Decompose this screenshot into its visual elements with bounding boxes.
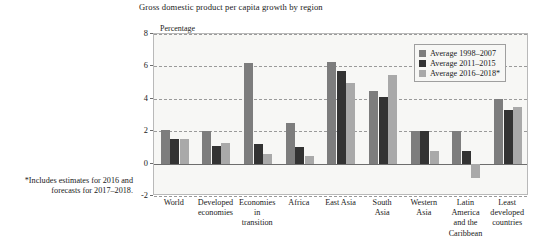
bar xyxy=(420,131,429,163)
y-tick-mark xyxy=(150,65,153,66)
y-tick-label: 6 xyxy=(132,61,148,70)
gridline--2 xyxy=(154,196,527,197)
legend-item[interactable]: Average 2016–2018* xyxy=(419,68,500,78)
bar-group xyxy=(154,34,196,194)
x-category-label-line: in xyxy=(229,208,285,218)
bar xyxy=(337,71,346,163)
y-tick-mark xyxy=(150,33,153,34)
chart-footnote-line: forecasts for 2017–2018. xyxy=(8,186,133,196)
legend-label: Average 1998–2007 xyxy=(430,49,496,58)
bar xyxy=(411,131,420,163)
bar xyxy=(161,130,170,164)
x-category-label-line: developed xyxy=(479,208,535,218)
y-tick-label: 0 xyxy=(132,158,148,167)
legend-item[interactable]: Average 2011–2015 xyxy=(419,58,500,68)
bar xyxy=(327,62,336,164)
y-tick-label: 8 xyxy=(132,29,148,38)
bar xyxy=(244,63,253,163)
y-tick-mark xyxy=(150,195,153,196)
bar xyxy=(295,147,304,163)
bar xyxy=(170,139,179,163)
legend-swatch-icon xyxy=(419,50,426,57)
y-tick-mark xyxy=(150,163,153,164)
legend-swatch-icon xyxy=(419,60,426,67)
bar-group xyxy=(362,34,404,194)
legend-item[interactable]: Average 1998–2007 xyxy=(419,48,500,58)
chart-legend: Average 1998–2007Average 2011–2015Averag… xyxy=(414,44,506,82)
bar xyxy=(254,144,263,163)
y-tick-mark xyxy=(150,130,153,131)
legend-label: Average 2016–2018* xyxy=(430,69,500,78)
x-category-label-line: transition xyxy=(229,218,285,228)
bar xyxy=(452,131,461,163)
bar xyxy=(369,91,378,164)
x-category-label-line: Least xyxy=(479,198,535,208)
bar xyxy=(221,143,230,164)
y-tick-label: 4 xyxy=(132,93,148,102)
x-category-label-line: countries xyxy=(479,218,535,228)
bar xyxy=(379,97,388,163)
x-category-label-line: Caribbean xyxy=(438,229,494,239)
bar xyxy=(305,156,314,164)
bar-group xyxy=(321,34,363,194)
y-axis-label: Percentage xyxy=(160,24,195,33)
bar-group xyxy=(196,34,238,194)
x-category-label: Leastdevelopedcountries xyxy=(479,198,535,229)
bar xyxy=(494,99,503,164)
chart-title: Gross domestic product per capita growth… xyxy=(139,2,323,12)
bar xyxy=(286,123,295,164)
legend-swatch-icon xyxy=(419,70,426,77)
bar xyxy=(346,83,355,164)
bar xyxy=(202,131,211,163)
chart-footnote: *Includes estimates for 2016 andforecast… xyxy=(8,176,133,197)
bar xyxy=(180,139,189,163)
bar-group xyxy=(279,34,321,194)
bar xyxy=(471,164,480,179)
chart-footnote-line: *Includes estimates for 2016 and xyxy=(8,176,133,186)
bar xyxy=(430,151,439,164)
y-tick-label: 2 xyxy=(132,126,148,135)
bar xyxy=(388,75,397,164)
bar xyxy=(513,107,522,164)
bar xyxy=(462,151,471,164)
bar xyxy=(263,154,272,164)
chart-figure: Gross domestic product per capita growth… xyxy=(0,0,535,249)
legend-label: Average 2011–2015 xyxy=(430,59,496,68)
y-tick-mark xyxy=(150,98,153,99)
bar xyxy=(212,146,221,164)
bar xyxy=(504,110,513,163)
bar-group xyxy=(237,34,279,194)
